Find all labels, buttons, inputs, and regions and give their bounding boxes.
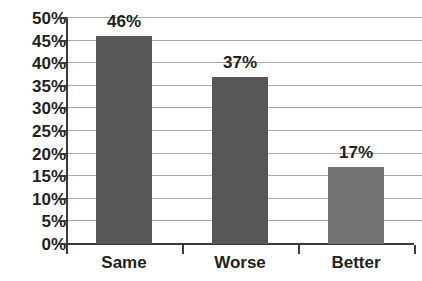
- category-label-worse: Worse: [214, 254, 266, 271]
- x-axis-tick-mark: [66, 245, 68, 254]
- y-axis-tick-label: 0%: [6, 236, 66, 253]
- y-axis-tick-label: 25%: [6, 123, 66, 140]
- y-axis-tick-label: 10%: [6, 190, 66, 207]
- y-axis-line: [66, 18, 68, 244]
- y-axis-tick-label: 40%: [6, 55, 66, 72]
- y-axis-tick-label: 20%: [6, 145, 66, 162]
- category-label-better: Better: [331, 254, 380, 271]
- bar-value-label: 37%: [223, 54, 257, 71]
- bar-value-label: 17%: [339, 144, 373, 161]
- x-axis-tick-mark: [182, 245, 184, 254]
- bar-better: [328, 167, 384, 244]
- x-axis-tick-mark: [298, 245, 300, 254]
- y-axis-tick-label: 45%: [6, 32, 66, 49]
- y-axis-tick-label: 35%: [6, 77, 66, 94]
- category-label-same: Same: [101, 254, 146, 271]
- bar-chart: 0%5%10%15%20%25%30%35%40%45%50% 46%37%17…: [0, 0, 422, 281]
- y-axis-tick-label: 30%: [6, 100, 66, 117]
- y-axis-tick-label: 5%: [6, 213, 66, 230]
- x-axis-tick-mark: [414, 245, 416, 254]
- y-axis-tick-label: 50%: [6, 10, 66, 27]
- bar-worse: [212, 77, 268, 244]
- bar-same: [96, 36, 152, 244]
- y-axis-tick-label: 15%: [6, 168, 66, 185]
- bar-value-label: 46%: [107, 13, 141, 30]
